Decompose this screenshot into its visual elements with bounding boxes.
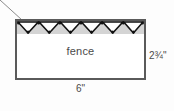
rectangle-shape: fence (15, 19, 146, 80)
geometry-figure-screenshot: fence 2¾" 6" (0, 0, 174, 111)
interior-label: fence (17, 45, 144, 57)
height-dimension-label: 2¾" (149, 50, 166, 61)
zigzag-fence-icon (17, 21, 144, 35)
width-dimension-label: 6" (15, 83, 146, 94)
